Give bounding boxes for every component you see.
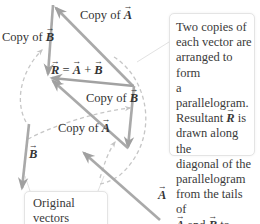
vector-a-symbol: A (158, 188, 166, 202)
vector-b-symbol: B (29, 147, 37, 161)
note-line: Two copies of (176, 20, 254, 35)
note-text: is (238, 111, 246, 125)
vector-r-symbol: R (51, 63, 59, 77)
label-copy-of-a-top: Copy of A (80, 8, 132, 22)
note-line: Original vectors (33, 196, 107, 224)
label-resultant-equation: R = A + B (51, 63, 103, 77)
vector-a-symbol: A (73, 63, 81, 77)
vector-a-symbol: A (102, 121, 110, 135)
vector-b-symbol: B (94, 63, 102, 77)
label-text: Copy of (58, 121, 99, 135)
label-text: Copy of (80, 8, 121, 22)
note-line-resultant: Resultant R is (176, 111, 254, 126)
vector-a-symbol: A (124, 8, 132, 22)
label-copy-of-b-right: Copy of B (86, 91, 138, 105)
label-text: Copy of (2, 30, 43, 44)
note-line: a parallelogram. (176, 81, 254, 111)
label-copy-of-a-lower: Copy of A (58, 121, 110, 135)
label-copy-of-b-left: Copy of B (2, 30, 54, 44)
note-line: diagonal of the (176, 157, 254, 172)
note-line-tails: A and B to their (176, 218, 254, 224)
vector-b-symbol: B (46, 30, 54, 44)
vector-a-symbol: A (176, 218, 184, 224)
resultant-r-arrow (52, 78, 134, 86)
label-original-b: B (29, 147, 37, 161)
note-line: arranged to form (176, 50, 254, 80)
label-text: Copy of (86, 91, 127, 105)
vector-b-symbol: B (209, 218, 217, 224)
vector-b-symbol: B (130, 91, 138, 105)
plus-sign: + (84, 63, 91, 77)
note-text: Resultant (176, 111, 223, 125)
note-text: and (187, 218, 205, 224)
note-line: parallelogram (176, 172, 254, 187)
original-vectors-note: Original vectors to be added. (24, 191, 108, 224)
explanation-note: Two copies of each vector are arranged t… (169, 13, 255, 156)
label-original-a: A (158, 188, 166, 202)
vector-r-symbol: R (226, 111, 234, 126)
note-line: drawn along the (176, 126, 254, 156)
note-line: each vector are (176, 35, 254, 50)
equals-sign: = (62, 63, 69, 77)
